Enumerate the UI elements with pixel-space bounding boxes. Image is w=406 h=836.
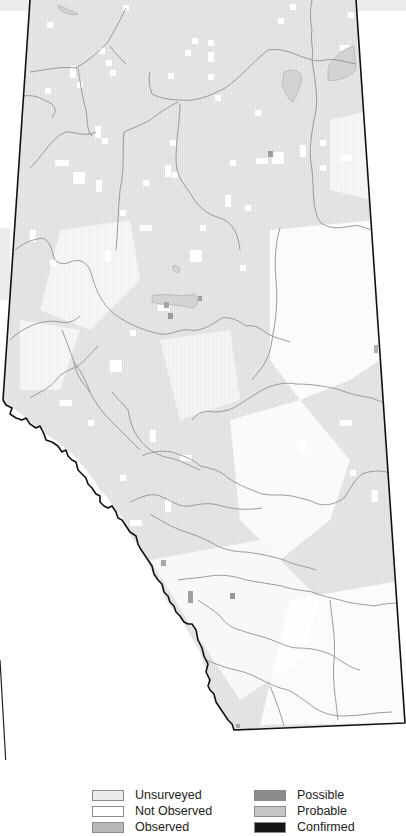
legend: Unsurveyed Not Observed Observed Possibl… <box>0 780 406 836</box>
legend-label: Observed <box>135 820 189 834</box>
legend-item-observed: Observed <box>92 820 189 834</box>
swatch-observed <box>92 822 124 833</box>
distribution-map <box>0 0 406 760</box>
legend-label: Possible <box>297 788 344 802</box>
legend-label: Confirmed <box>297 820 355 834</box>
legend-label: Probable <box>297 804 347 818</box>
left-neighbor-patch <box>0 228 10 300</box>
swatch-probable <box>254 806 286 817</box>
legend-item-not-observed: Not Observed <box>92 804 212 818</box>
swatch-possible <box>254 790 286 801</box>
swatch-not-observed <box>92 806 124 817</box>
legend-item-probable: Probable <box>254 804 347 818</box>
legend-item-possible: Possible <box>254 788 344 802</box>
legend-item-confirmed: Confirmed <box>254 820 355 834</box>
neighbor-edge <box>0 660 10 760</box>
swatch-unsurveyed <box>92 790 124 801</box>
swatch-confirmed <box>254 822 286 833</box>
legend-item-unsurveyed: Unsurveyed <box>92 788 202 802</box>
legend-label: Unsurveyed <box>135 788 202 802</box>
legend-label: Not Observed <box>135 804 212 818</box>
